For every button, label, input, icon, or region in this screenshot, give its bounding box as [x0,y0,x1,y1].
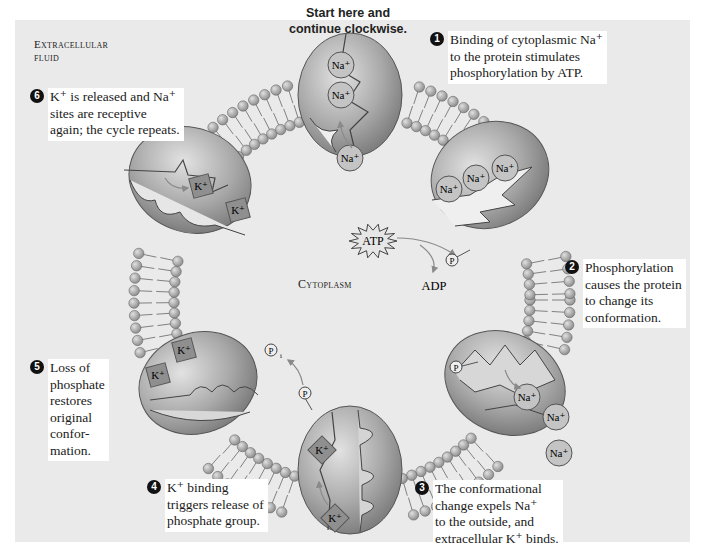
step-2-badge: 2 [565,260,579,274]
svg-text:P: P [302,389,307,399]
na-ion: Na⁺ [328,82,354,108]
svg-text:K⁺: K⁺ [328,512,342,524]
na-ion: Na⁺ [492,155,518,181]
extracellular-fluid-label: Extracellular fluid [34,38,108,64]
na-ion: Na⁺ [543,404,569,430]
svg-text:Na⁺: Na⁺ [518,391,537,403]
svg-text:K⁺: K⁺ [315,444,329,456]
phosphate-group-step4: P [299,387,312,410]
step-2-text: Phosphorylation causes the protein to ch… [583,259,686,328]
start-instruction: Start here and continue clockwise. [268,5,428,37]
step-5-callout: 5 Loss of phosphate restores original co… [30,359,109,461]
pump-protein-step2 [414,103,567,248]
step-2-callout: 2 Phosphorylation causes the protein to … [565,259,686,328]
step-4-callout: 4 K⁺ binding triggers release of phospha… [147,479,268,532]
atp-starburst: ATP [349,224,397,258]
step-3-badge: 3 [415,481,429,495]
svg-text:P: P [449,256,454,266]
svg-text:Na⁺: Na⁺ [467,172,486,184]
svg-text:K⁺: K⁺ [231,204,245,216]
svg-text:K⁺: K⁺ [194,180,208,192]
step-3-callout: 3 The conformational change expels Na⁺ t… [415,480,563,549]
step-5-badge: 5 [30,360,44,374]
k-ion: K⁺ [172,338,196,362]
step-4-badge: 4 [147,480,161,494]
step-4-text: K⁺ binding triggers release of phosphate… [165,479,268,532]
step-6-text: K⁺ is released and Na⁺ sites are recepti… [48,88,184,141]
k-ion: K⁺ [226,198,250,222]
pump-protein-step3 [428,311,583,454]
phosphate-group-step2: P [446,250,470,266]
pump-protein-step5 [125,315,272,450]
svg-text:P: P [453,363,458,373]
k-ion: K⁺ [189,174,213,198]
k-ion: K⁺ [146,363,170,387]
svg-text:Na⁺: Na⁺ [440,183,459,195]
step-1-callout: 1 Binding of cytoplasmic Na⁺ to the prot… [430,31,607,84]
na-ion: Na⁺ [514,384,540,410]
pump-protein-step4 [298,406,402,534]
na-ion: Na⁺ [337,145,363,171]
svg-text:K⁺: K⁺ [177,344,191,356]
na-ion: Na⁺ [328,52,354,78]
svg-text:Na⁺: Na⁺ [550,447,569,459]
step-5-text: Loss of phosphate restores original conf… [48,359,109,461]
svg-text:Na⁺: Na⁺ [547,411,566,423]
na-ion: Na⁺ [436,176,462,202]
svg-text:Na⁺: Na⁺ [496,162,515,174]
adp-label: ADP [421,279,446,293]
svg-text:Na⁺: Na⁺ [332,89,351,101]
na-ion: Na⁺ [463,165,489,191]
cytoplasm-label: Cytoplasm [298,278,352,291]
svg-text:K⁺: K⁺ [151,369,165,381]
svg-text:i: i [280,352,282,360]
step-1-text: Binding of cytoplasmic Na⁺ to the protei… [448,31,607,84]
step-6-badge: 6 [30,89,44,103]
na-ion: Na⁺ [546,440,572,466]
svg-text:P: P [268,346,273,356]
svg-text:Na⁺: Na⁺ [332,59,351,71]
atp-label: ATP [362,234,384,248]
step-1-badge: 1 [430,32,444,46]
step-3-text: The conformational change expels Na⁺ to … [433,480,563,549]
svg-text:Na⁺: Na⁺ [341,152,360,164]
step-6-callout: 6 K⁺ is released and Na⁺ sites are recep… [30,88,184,141]
inorganic-phosphate: P i [265,344,282,360]
